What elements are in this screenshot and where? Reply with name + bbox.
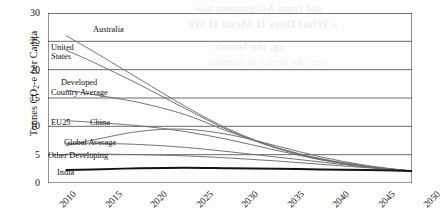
series-label: Other Developing bbox=[48, 151, 108, 160]
series-label: United bbox=[51, 43, 74, 52]
x-tick-label: 2025 bbox=[194, 189, 215, 210]
y-axis-title: Tonnes CO2-e per Capita bbox=[28, 0, 39, 169]
y-tick-label: 10 bbox=[14, 121, 40, 131]
series-label: EU25 bbox=[51, 118, 71, 127]
series-line bbox=[66, 36, 412, 171]
x-tick-label: 2015 bbox=[103, 189, 124, 210]
series-label: States bbox=[51, 52, 71, 61]
series-label: Global Average bbox=[64, 138, 116, 147]
y-tick-label: 0 bbox=[14, 178, 40, 188]
y-tick-label: 30 bbox=[14, 8, 40, 18]
series-label: India bbox=[57, 168, 74, 177]
series-label: Developed bbox=[61, 78, 97, 87]
series-label: China bbox=[90, 118, 110, 127]
x-tick-label: 2035 bbox=[285, 189, 306, 210]
y-tick-label: 5 bbox=[14, 150, 40, 160]
y-tick-label: 25 bbox=[14, 36, 40, 46]
x-tick-label: 2020 bbox=[149, 189, 170, 210]
series-line bbox=[66, 121, 412, 171]
x-tick-label: 2010 bbox=[58, 189, 79, 210]
x-tick-label: 2030 bbox=[240, 189, 261, 210]
y-axis-title-sub: 2 bbox=[32, 85, 41, 89]
x-tick-label: 2050 bbox=[422, 189, 442, 210]
y-tick-label: 15 bbox=[14, 93, 40, 103]
x-tick-label: 2040 bbox=[331, 189, 352, 210]
series-line bbox=[66, 168, 412, 171]
y-tick-label: 20 bbox=[14, 65, 40, 75]
x-tick-label: 2045 bbox=[376, 189, 397, 210]
series-label: Country Average bbox=[51, 88, 108, 97]
series-label: Australia bbox=[93, 25, 124, 34]
